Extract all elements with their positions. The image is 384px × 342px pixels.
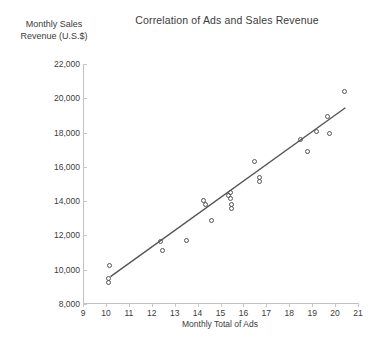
data-point: [325, 114, 330, 119]
x-tick-mark: [358, 303, 359, 307]
y-tick-label: 20,000: [34, 93, 80, 103]
data-point: [160, 248, 165, 253]
y-tick-label: 10,000: [34, 265, 80, 275]
y-tick-label: 18,000: [34, 128, 80, 138]
scatter-chart: Monthly Sales Revenue (U.S.$) Correlatio…: [0, 0, 384, 342]
data-point: [209, 218, 214, 223]
y-axis-title-line-2: Revenue (U.S.$): [8, 30, 100, 42]
data-point: [107, 263, 112, 268]
y-axis-title-line-1: Monthly Sales: [8, 18, 100, 30]
y-tick-label: 22,000: [34, 59, 80, 69]
data-point: [342, 89, 347, 94]
data-point: [305, 149, 310, 154]
data-point: [184, 238, 189, 243]
y-tick-label: 12,000: [34, 230, 80, 240]
plot-area: [83, 64, 358, 304]
x-tick-label: 21: [344, 308, 372, 318]
data-point: [257, 179, 262, 184]
x-axis-title: Monthly Total of Ads: [83, 319, 357, 329]
data-point: [327, 131, 332, 136]
chart-title: Correlation of Ads and Sales Revenue: [112, 14, 342, 26]
data-point: [106, 280, 111, 285]
y-axis-title: Monthly Sales Revenue (U.S.$): [8, 18, 100, 42]
y-tick-label: 14,000: [34, 196, 80, 206]
trendline: [83, 64, 358, 304]
y-tick-label: 16,000: [34, 162, 80, 172]
